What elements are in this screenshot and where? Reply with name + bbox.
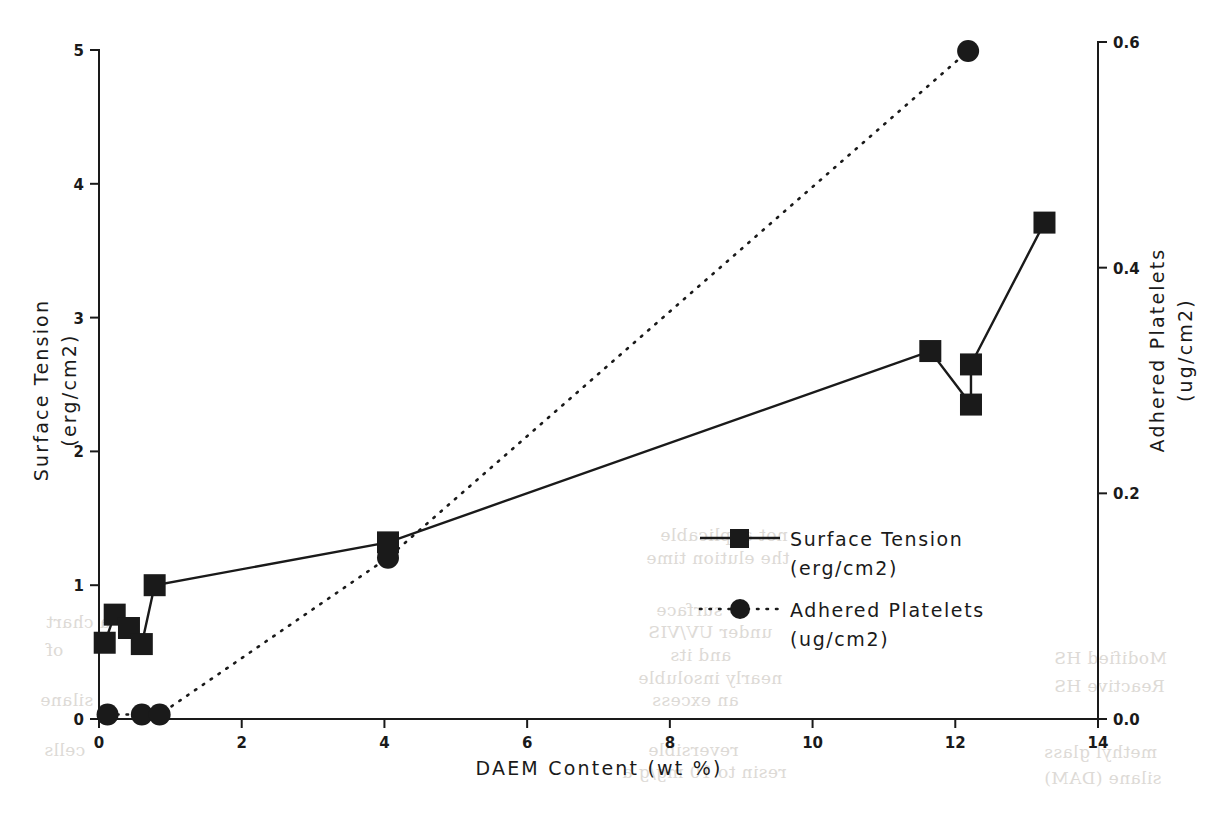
legend-item-adhered-platelets[interactable]: Adhered Platelets (ug/cm2) (700, 599, 985, 650)
bottom-tick-label: 0 (94, 734, 104, 752)
data-point-marker (960, 394, 982, 416)
data-point-marker (377, 531, 399, 553)
right-tick-label: 0.4 (1113, 260, 1140, 278)
data-point-marker (919, 340, 941, 362)
y-right-axis-title-line2: (ug/cm2) (1174, 298, 1196, 402)
data-point-marker (131, 633, 153, 655)
legend-marker-square (730, 529, 749, 548)
series-adhered-platelets (97, 40, 980, 725)
data-point-marker (957, 40, 979, 62)
y-right-axis-title-line1: Adhered Platelets (1146, 248, 1168, 453)
left-tick-label: 0 (74, 711, 84, 729)
chart-svg: 012345 02468101214 0.00.20.40.6 DAEM Con… (0, 0, 1212, 817)
series-surface-tension (94, 212, 1056, 655)
left-tick-label: 1 (74, 577, 84, 595)
legend-sublabel-adhered-platelets: (ug/cm2) (790, 628, 889, 650)
data-point-marker (94, 632, 116, 654)
data-point-marker (97, 703, 119, 725)
left-tick-label: 5 (74, 42, 84, 60)
right-axis-ticks: 0.00.20.40.6 (1098, 34, 1140, 729)
data-point-marker (149, 703, 171, 725)
left-tick-label: 4 (74, 176, 84, 194)
legend-label-surface-tension: Surface Tension (790, 528, 963, 550)
y-left-axis-title-line2: (erg/cm2) (58, 333, 80, 446)
bottom-axis: 02468101214 (94, 719, 1109, 752)
right-tick-label: 0.6 (1113, 34, 1140, 52)
left-tick-label: 3 (74, 310, 84, 328)
bottom-tick-label: 6 (522, 734, 532, 752)
right-tick-label: 0.2 (1113, 485, 1140, 503)
legend-label-adhered-platelets: Adhered Platelets (790, 599, 985, 621)
series-line-square (105, 223, 1045, 644)
right-tick-label: 0.0 (1113, 711, 1140, 729)
bottom-tick-label: 12 (945, 734, 966, 752)
y-left-axis-title-line1: Surface Tension (30, 299, 52, 481)
chart-figure: 012345 02468101214 0.00.20.40.6 DAEM Con… (0, 0, 1212, 817)
bottom-tick-label: 2 (236, 734, 246, 752)
legend: Surface Tension (erg/cm2) Adhered Platel… (700, 528, 985, 650)
right-axis: 0.00.20.40.6 (1098, 34, 1140, 729)
bottom-tick-label: 8 (665, 734, 675, 752)
legend-item-surface-tension[interactable]: Surface Tension (erg/cm2) (700, 528, 963, 579)
bottom-tick-label: 14 (1088, 734, 1109, 752)
bottom-tick-label: 10 (802, 734, 823, 752)
bottom-axis-ticks: 02468101214 (94, 719, 1109, 752)
data-point-marker (144, 574, 166, 596)
legend-marker-circle (730, 599, 750, 619)
legend-sublabel-surface-tension: (erg/cm2) (790, 557, 898, 579)
data-point-marker (960, 353, 982, 375)
x-axis-title: DAEM Content (wt %) (475, 757, 722, 779)
data-point-marker (1033, 212, 1055, 234)
bottom-tick-label: 4 (379, 734, 389, 752)
